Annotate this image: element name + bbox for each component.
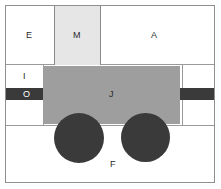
label-a: A [151, 31, 157, 40]
label-j: J [109, 90, 114, 99]
label-i: I [23, 72, 26, 81]
region-f-wheel-right [121, 113, 170, 162]
label-f: F [110, 160, 116, 169]
label-m: M [73, 31, 81, 40]
label-e: E [26, 31, 32, 40]
diagram-canvas: E M A I O J F [0, 0, 221, 189]
label-o: O [23, 90, 30, 99]
region-f-wheel-left [54, 113, 104, 163]
